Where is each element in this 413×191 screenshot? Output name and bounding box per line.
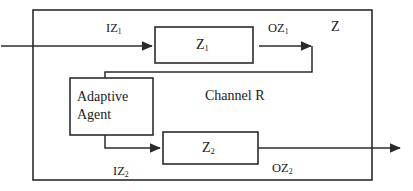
diagram-canvas: IZ1 OZ1 IZ2 OZ2 Z Z1 Z2 Adaptive Agent C… xyxy=(0,0,413,191)
signal-label-oz1: OZ1 xyxy=(268,22,289,35)
agent-label-line2: Agent xyxy=(77,106,128,124)
signal-label-oz2: OZ2 xyxy=(272,162,293,175)
block-label-z2: Z2 xyxy=(202,141,215,155)
block-label-z1: Z1 xyxy=(196,38,209,52)
outer-box-label-z: Z xyxy=(331,20,340,34)
signal-label-iz1: IZ1 xyxy=(106,22,122,35)
agent-label-line1: Adaptive xyxy=(77,88,128,106)
channel-label: Channel R xyxy=(205,89,265,103)
signal-label-iz2: IZ2 xyxy=(113,165,129,178)
connector-iz2 xyxy=(105,135,160,148)
block-label-adaptive-agent: Adaptive Agent xyxy=(77,88,128,124)
